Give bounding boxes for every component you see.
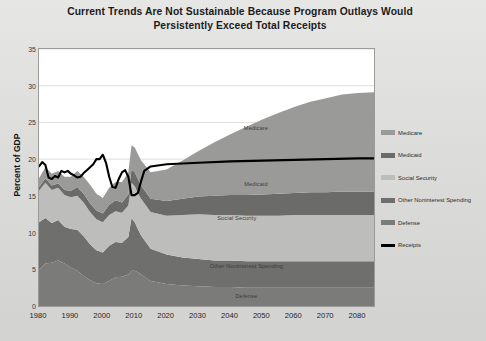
y-tick-label: 5 [8,266,36,273]
x-tick-label: 2010 [125,311,142,320]
legend-label: Medicaid [398,152,422,158]
y-tick-label: 20 [8,156,36,163]
chart-title-line-2: Persistently Exceed Total Receipts [40,19,440,33]
y-tick-label: 10 [8,229,36,236]
area-label-medicaid: Medicaid [244,181,268,187]
legend-swatch-icon [381,220,395,225]
chart-title: Current Trends Are Not Sustainable Becau… [40,5,440,33]
area-label-social-security: Social Security [217,215,256,221]
plot-canvas [39,49,374,306]
chart-title-line-1: Current Trends Are Not Sustainable Becau… [40,5,440,19]
y-axis-ticks: 05101520253035 [4,0,36,341]
legend-swatch-icon [381,175,395,180]
x-tick-label: 2050 [253,311,270,320]
legend-swatch-icon [381,130,395,135]
x-tick-label: 2070 [317,311,334,320]
area-label-defense: Defense [235,293,257,299]
legend-label: Receipts [398,242,421,248]
legend-swatch-icon [381,244,395,247]
y-tick-label: 25 [8,119,36,126]
x-tick-label: 2030 [189,311,206,320]
x-tick-label: 2000 [93,311,110,320]
x-tick-label: 2080 [349,311,366,320]
chart-figure: Current Trends Are Not Sustainable Becau… [0,0,486,341]
legend-label: Social Security [398,175,437,181]
legend-item-receipts[interactable]: Receipts [381,240,485,251]
x-tick-label: 1980 [30,311,47,320]
y-tick-label: 35 [8,46,36,53]
legend-item-defense[interactable]: Defense [381,217,485,228]
area-label-medicare: Medicare [244,125,268,131]
legend-item-other-noninterest-spending[interactable]: Other Noninterest Spending [381,195,485,206]
legend-item-medicare[interactable]: Medicare [381,127,485,138]
x-tick-label: 2020 [157,311,174,320]
x-tick-label: 1990 [61,311,78,320]
area-label-other-noninterest-spending: Other Noninterest Spending [210,263,283,269]
legend-label: Medicare [398,130,422,136]
chart-legend: MedicareMedicaidSocial SecurityOther Non… [381,127,485,263]
x-tick-label: 2060 [285,311,302,320]
y-tick-label: 15 [8,192,36,199]
legend-swatch-icon [381,198,395,203]
legend-label: Other Noninterest Spending [398,197,471,203]
y-tick-label: 0 [8,303,36,310]
legend-item-social-security[interactable]: Social Security [381,172,485,183]
plot-area: MedicareMedicaidSocial SecurityOther Non… [38,48,375,307]
legend-item-medicaid[interactable]: Medicaid [381,150,485,161]
x-axis-ticks: 1980199020002010202020302040205020602070… [38,311,375,325]
y-tick-label: 30 [8,82,36,89]
legend-swatch-icon [381,153,395,158]
legend-label: Defense [398,220,420,226]
x-tick-label: 2040 [221,311,238,320]
